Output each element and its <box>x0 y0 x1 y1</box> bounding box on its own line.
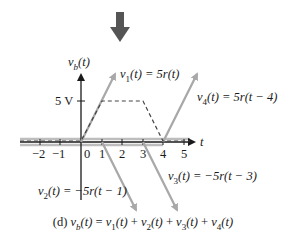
figure-caption: (d) vb(t) = v1(t) + v2(t) + v3(t) + v4(t… <box>0 215 286 232</box>
diagram-canvas <box>0 0 286 242</box>
x-axis-label: t <box>200 136 203 149</box>
x-tick-label: 3 <box>140 148 146 161</box>
x-tick-label: −2 <box>32 148 45 161</box>
ramp-v4 <box>163 74 197 142</box>
down-arrow-icon <box>110 12 130 42</box>
vb-sum-dashed <box>20 101 190 141</box>
x-tick-label: 4 <box>160 148 166 161</box>
label-v1: v1(t) = 5r(t) <box>120 68 179 84</box>
x-tick-label: 0 <box>84 148 90 161</box>
x-tick-label: −1 <box>52 148 65 161</box>
x-tick-label: 2 <box>119 148 125 161</box>
x-tick-label: 1 <box>99 148 105 161</box>
y-tick-label: 5 V <box>55 95 73 108</box>
label-v2: v2(t) = −5r(t − 1) <box>38 185 127 201</box>
y-axis-label: vb(t) <box>68 56 90 72</box>
label-v3: v3(t) = −5r(t − 3) <box>168 170 257 186</box>
x-tick-label: 5 <box>181 148 187 161</box>
label-v4: v4(t) = 5r(t − 4) <box>197 91 277 107</box>
